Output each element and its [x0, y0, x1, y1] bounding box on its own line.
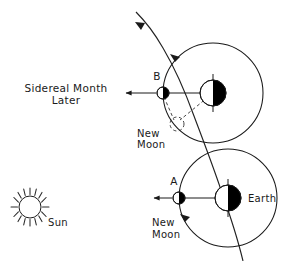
new-moon-upper-label-line1: New: [137, 128, 160, 139]
point-b-label: B: [153, 70, 160, 82]
sun-label: Sun: [48, 217, 68, 228]
point-a-label: A: [170, 175, 178, 187]
new-moon-upper-label-line2: Moon: [137, 139, 165, 150]
new-moon-lower-label-line1: New: [152, 217, 175, 228]
sun-symbol: [11, 188, 49, 226]
sun-rays: [11, 188, 49, 226]
sidereal-month-label-line1: Sidereal Month: [24, 82, 107, 94]
lower-orbit-direction-arrowhead: [180, 214, 190, 222]
sidereal-month-label-line2: Later: [52, 94, 81, 106]
diagram-svg: Sidereal Month Later B New Moon A New Mo…: [0, 0, 292, 261]
astronomy-diagram-canvas: Sidereal Month Later B New Moon A New Mo…: [0, 0, 292, 261]
sun-disc: [19, 196, 41, 218]
upper-orbit-direction-arrowhead: [170, 54, 180, 62]
moon-new-position-dashed-circle: [170, 117, 184, 131]
trajectory-direction-arrowhead: [135, 22, 145, 30]
new-moon-lower-label-line2: Moon: [152, 229, 180, 240]
earth-label: Earth: [248, 193, 276, 204]
